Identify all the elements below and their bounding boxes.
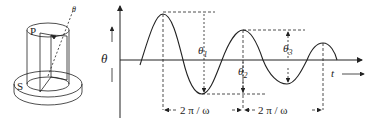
oscillation-curve xyxy=(140,14,337,94)
theta2-label: θ2 xyxy=(238,65,247,80)
label-s: S xyxy=(17,80,23,92)
period-label-2: 2 π / ω xyxy=(258,104,288,116)
amplitude-markers xyxy=(204,14,288,92)
diagram-canvas: P S θ θ θ1 θ2 θ3 2 π / ω 2 π / ω t xyxy=(0,0,378,127)
theta3-label: θ3 xyxy=(283,42,292,57)
y-axis-label: θ xyxy=(101,51,108,66)
label-theta-apparatus: θ xyxy=(72,5,76,14)
guide-lines xyxy=(163,12,323,110)
label-p: P xyxy=(30,25,36,37)
period-label-1: 2 π / ω xyxy=(180,104,210,116)
theta1-label: θ1 xyxy=(198,44,207,59)
torsion-apparatus xyxy=(14,8,82,105)
x-axis-label: t xyxy=(331,67,335,79)
